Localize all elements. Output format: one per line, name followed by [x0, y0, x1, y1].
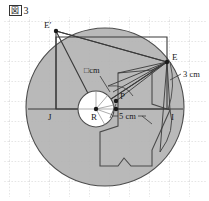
label-P: P	[120, 91, 125, 101]
marker-R	[94, 107, 98, 111]
figure-container: 図3	[0, 0, 209, 201]
annotation-three-cm: 3 cm	[183, 69, 200, 79]
label-E: E	[172, 52, 178, 62]
annotation-unknown-cm: □cm	[84, 65, 100, 75]
label-R: R	[91, 112, 97, 122]
label-E-prime: E′	[44, 20, 51, 30]
annotation-five-cm: 5 cm	[119, 111, 136, 121]
label-I: I	[171, 112, 174, 122]
marker-E-prime	[54, 29, 58, 33]
marker-P-base	[114, 107, 118, 111]
marker-P	[114, 99, 118, 103]
marker-E	[165, 60, 169, 64]
label-J: J	[48, 112, 52, 122]
geometry-diagram: E′ E P R J I □cm 3 cm 5 cm	[0, 0, 209, 201]
